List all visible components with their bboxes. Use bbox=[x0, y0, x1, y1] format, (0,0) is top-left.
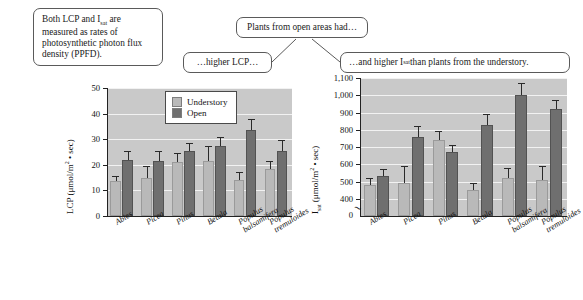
callout-higher-isat-text-a: …and higher I bbox=[349, 57, 403, 68]
callout-higher-isat: …and higher Isat than plants from the un… bbox=[340, 52, 570, 73]
callout-higher-isat-text-b: than plants from the understory. bbox=[410, 57, 528, 68]
callout-ppfd-text-a: Both LCP and I bbox=[42, 14, 100, 24]
callout-higher-lcp: …higher LCP… bbox=[183, 52, 272, 73]
callout-open-areas-text: Plants from open areas had… bbox=[247, 22, 357, 33]
callout-higher-isat-subscript: sat bbox=[403, 59, 410, 66]
callout-ppfd-note: Both LCP and Isat are measured as rates … bbox=[33, 8, 163, 66]
callout-open-areas: Plants from open areas had… bbox=[236, 17, 368, 38]
callout-higher-lcp-text: …higher LCP… bbox=[197, 57, 259, 68]
